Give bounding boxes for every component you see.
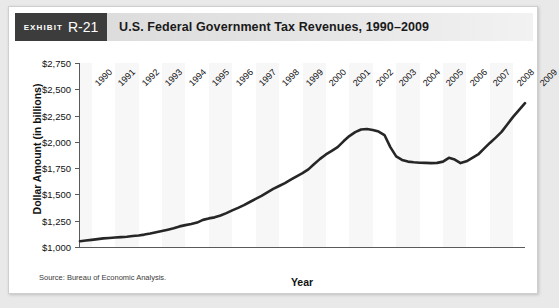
y-tick-label: $1,750 [42, 163, 71, 174]
y-tick-label: $2,750 [42, 58, 71, 69]
data-line-svg [80, 63, 525, 247]
y-tick-label: $2,500 [42, 84, 71, 95]
y-axis-title: Dollar Amount (in billions) [31, 74, 43, 224]
y-tick-label: $2,250 [42, 110, 71, 121]
exhibit-badge: EXHIBIT R-21 [15, 13, 107, 41]
exhibit-header: EXHIBIT R-21 U.S. Federal Government Tax… [15, 13, 533, 41]
y-tick-label: $1,000 [42, 242, 71, 253]
x-tick-label: 2009 [538, 67, 559, 88]
exhibit-figure: EXHIBIT R-21 U.S. Federal Government Tax… [8, 6, 538, 294]
chart-title: U.S. Federal Government Tax Revenues, 19… [119, 13, 429, 41]
y-tick-mark [75, 247, 80, 248]
y-tick-label: $1,500 [42, 189, 71, 200]
exhibit-number: R-21 [68, 19, 98, 35]
chart-container: Dollar Amount (in billions) $1,000$1,250… [9, 43, 539, 295]
plot-area: $1,000$1,250$1,500$1,750$2,000$2,250$2,5… [79, 63, 525, 248]
y-tick-label: $1,250 [42, 215, 71, 226]
source-note: Source: Bureau of Economic Analysis. [39, 273, 166, 282]
y-tick-label: $2,000 [42, 136, 71, 147]
exhibit-label: EXHIBIT [24, 23, 63, 32]
data-series-line [80, 103, 525, 241]
